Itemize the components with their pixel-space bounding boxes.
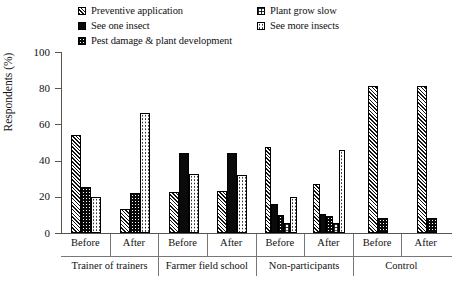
bar bbox=[120, 209, 130, 233]
legend-swatch-diagonal-hatch-icon bbox=[78, 7, 86, 15]
group-label: Control bbox=[353, 260, 450, 271]
group-label-band: Trainer of trainersFarmer field schoolNo… bbox=[61, 256, 452, 278]
bar bbox=[81, 187, 91, 233]
bar bbox=[368, 86, 378, 233]
subgroup-label: After bbox=[207, 237, 256, 248]
axis-separator bbox=[207, 234, 208, 256]
y-axis-tick-label: 20 bbox=[20, 191, 50, 202]
legend-item-plant-grow-slow: Plant grow slow bbox=[257, 4, 339, 17]
bar bbox=[71, 135, 81, 233]
bar bbox=[227, 153, 237, 233]
legend-swatch-grid-checker-icon bbox=[257, 7, 265, 15]
legend-item-pest-damage-plant-development: Pest damage & plant development bbox=[78, 34, 232, 47]
bar bbox=[427, 218, 437, 233]
legend-label: Preventive application bbox=[91, 5, 183, 16]
legend-column-left: Preventive application See one insect Pe… bbox=[78, 4, 232, 49]
legend-swatch-white-with-dots-icon bbox=[257, 22, 265, 30]
legend-label: Plant grow slow bbox=[270, 5, 337, 16]
subgroup-label: After bbox=[304, 237, 353, 248]
bar bbox=[417, 86, 427, 233]
y-axis-tick-label: 40 bbox=[20, 155, 50, 166]
legend-item-see-more-insects: See more insects bbox=[257, 19, 339, 32]
y-axis-tick-label: 60 bbox=[20, 119, 50, 130]
legend-label: See more insects bbox=[270, 20, 339, 31]
legend-item-preventive-application: Preventive application bbox=[78, 4, 232, 17]
legend-label: Pest damage & plant development bbox=[91, 35, 232, 46]
bar bbox=[91, 197, 101, 233]
legend-swatch-black-with-dots-icon bbox=[78, 37, 86, 45]
subgroup-label: After bbox=[401, 237, 450, 248]
bar bbox=[140, 113, 150, 233]
legend-swatch-solid-black-icon bbox=[78, 22, 86, 30]
subgroup-label: After bbox=[110, 237, 159, 248]
chart-legend: Preventive application See one insect Pe… bbox=[0, 0, 461, 44]
axis-separator bbox=[256, 234, 257, 256]
axis-separator bbox=[304, 234, 305, 256]
axis-separator bbox=[401, 234, 402, 256]
group-label: Non-participants bbox=[256, 260, 353, 271]
axis-separator bbox=[256, 256, 257, 276]
subgroup-label: Before bbox=[158, 237, 207, 248]
legend-column-right: Plant grow slow See more insects bbox=[257, 4, 339, 34]
bar bbox=[339, 150, 345, 233]
y-axis-tick-label: 100 bbox=[20, 47, 50, 58]
y-axis-tick-label: 80 bbox=[20, 83, 50, 94]
axis-separator bbox=[158, 256, 159, 276]
subgroup-label: Before bbox=[353, 237, 402, 248]
axis-separator bbox=[110, 234, 111, 256]
axis-separator bbox=[353, 234, 354, 256]
y-axis-tick-label: 0 bbox=[20, 228, 50, 239]
bar bbox=[130, 193, 140, 233]
bar bbox=[378, 218, 388, 233]
bar bbox=[217, 191, 227, 233]
subgroup-label: Before bbox=[61, 237, 110, 248]
subgroup-label: Before bbox=[256, 237, 305, 248]
bar-chart: Preventive application See one insect Pe… bbox=[0, 0, 461, 296]
bar bbox=[189, 174, 199, 233]
subgroup-label-band: BeforeAfterBeforeAfterBeforeAfterBeforeA… bbox=[61, 234, 452, 256]
bar bbox=[169, 192, 179, 233]
y-axis-title: Respondents (%) bbox=[2, 32, 14, 152]
legend-label: See one insect bbox=[91, 20, 150, 31]
group-band-rule bbox=[61, 256, 452, 257]
legend-item-see-one-insect: See one insect bbox=[78, 19, 232, 32]
bar bbox=[179, 153, 189, 233]
group-label: Trainer of trainers bbox=[61, 260, 158, 271]
group-label: Farmer field school bbox=[158, 260, 255, 271]
axis-separator bbox=[158, 234, 159, 256]
bar bbox=[290, 197, 296, 233]
plot-area bbox=[62, 52, 451, 233]
bar bbox=[237, 175, 247, 233]
axis-separator bbox=[353, 256, 354, 276]
